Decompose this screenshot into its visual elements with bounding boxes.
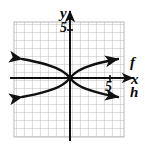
graph-figure: y x f h 5 5 — [0, 0, 145, 144]
x-axis-tick-label-5: 5 — [105, 80, 112, 94]
curve-label-h: h — [130, 85, 138, 100]
y-axis-tick-label-5: 5 — [60, 21, 67, 35]
y-axis-label: y — [60, 6, 67, 21]
graph-canvas — [0, 0, 145, 144]
curve-label-f: f — [130, 55, 135, 70]
